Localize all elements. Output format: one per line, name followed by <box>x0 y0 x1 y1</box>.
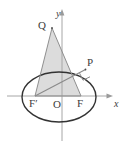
label-axis-y: y <box>56 9 60 19</box>
geometry-figure: Q P F′ O F x y <box>0 0 131 149</box>
label-point-F: F <box>77 98 83 109</box>
right-angle-marker-at-P <box>80 73 90 80</box>
label-F-prime-mark: ′ <box>35 97 37 109</box>
point-dot-Q <box>51 27 53 29</box>
point-dot-P <box>85 69 87 71</box>
label-axis-x: x <box>114 99 118 109</box>
label-point-Q: Q <box>38 20 46 31</box>
label-point-P: P <box>87 57 93 68</box>
figure-canvas <box>0 0 131 149</box>
triangle-QFprimeF <box>35 28 81 96</box>
label-point-O: O <box>53 99 61 110</box>
label-point-F-prime: F′ <box>29 98 38 109</box>
